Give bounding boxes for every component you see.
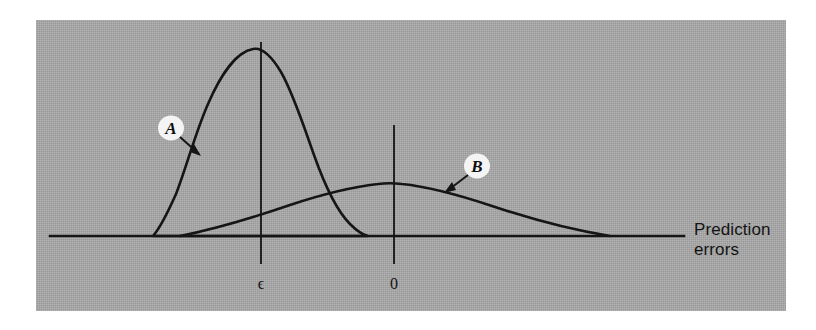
plot-panel-background — [36, 20, 786, 311]
figure-root: A B ϵ 0 Prediction errors — [0, 0, 816, 330]
x-axis-caption: Prediction errors — [694, 220, 804, 260]
